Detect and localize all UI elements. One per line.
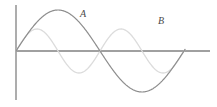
axes-group [16,5,210,100]
plot-canvas [0,0,217,107]
curve-b-label: B [158,16,164,26]
curve-a-label: A [80,9,86,19]
sine-wave-figure: A B [0,0,217,107]
